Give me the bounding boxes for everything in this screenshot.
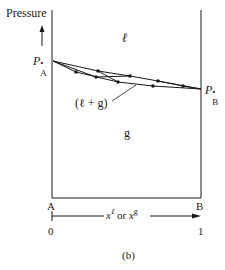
y-axis-label: Pressure: [6, 6, 47, 21]
region-gas-label: g: [124, 126, 130, 141]
x-axis-label: xℓ or xg: [106, 207, 138, 221]
figure-caption: (b): [122, 249, 135, 261]
x-max-label: 1: [198, 225, 204, 237]
component-a-label: A: [47, 200, 55, 212]
pa-symbol: P: [33, 54, 40, 68]
pa-label: P•A: [33, 54, 47, 69]
pb-sup: •: [212, 87, 215, 97]
component-b-label: B: [196, 200, 203, 212]
phase-diagram: [0, 0, 225, 270]
x-or: or: [114, 209, 129, 221]
pa-sub: A: [40, 68, 47, 78]
pa-sup: •: [40, 58, 43, 68]
pb-label: P•B: [205, 83, 219, 98]
x-gas-sup: g: [134, 207, 138, 216]
curves: [53, 61, 201, 89]
pressure-arrow-icon: [40, 25, 45, 32]
region-liquid-label: ℓ: [122, 30, 127, 46]
pb-sub: B: [212, 97, 218, 107]
two-phase-pointer: [112, 85, 136, 101]
x-min-label: 0: [48, 225, 54, 237]
pb-symbol: P: [205, 83, 212, 97]
data-points: [74, 69, 185, 88]
region-two-phase-label: (ℓ + g): [75, 96, 108, 111]
